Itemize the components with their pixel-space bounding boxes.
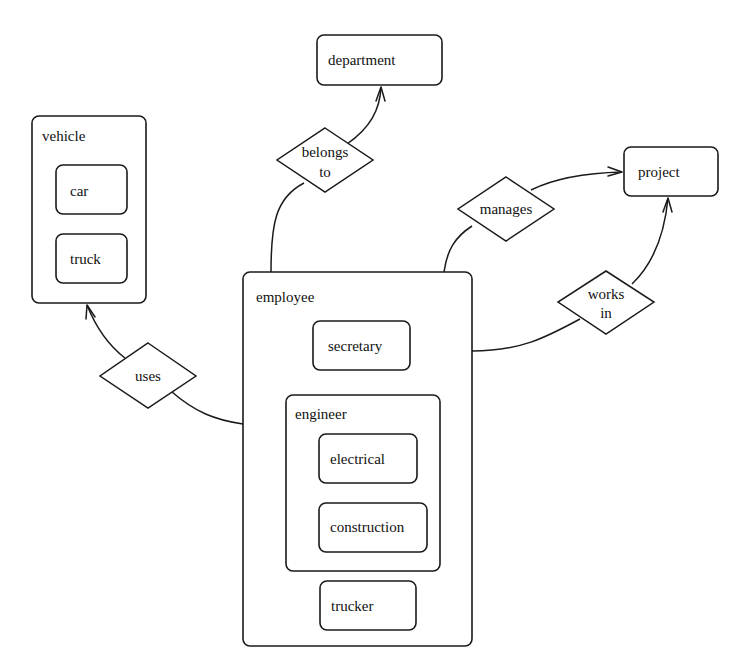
entity-secretary-label: secretary [328, 338, 383, 354]
entity-truck-label: truck [70, 251, 101, 267]
er-diagram: vehicle car truck department project emp… [0, 0, 745, 670]
entity-vehicle-label: vehicle [42, 128, 86, 144]
edge-employee-works-in [472, 319, 580, 351]
relationship-manages-label: manages [480, 201, 533, 217]
relationship-works-in-line1: works [588, 286, 625, 302]
relationship-works-in[interactable]: works in [558, 271, 654, 334]
entity-construction[interactable]: construction [319, 503, 427, 552]
relationship-belongs-to-line2: to [319, 164, 331, 180]
entity-employee-label: employee [256, 289, 315, 305]
entity-department[interactable]: department [317, 35, 442, 85]
entity-project[interactable]: project [624, 147, 718, 196]
edge-employee-uses [172, 392, 243, 424]
relationship-uses[interactable]: uses [100, 343, 196, 408]
entity-electrical[interactable]: electrical [319, 434, 417, 483]
entity-trucker-label: trucker [331, 598, 373, 614]
relationship-uses-label: uses [135, 368, 161, 384]
entity-secretary[interactable]: secretary [313, 321, 410, 370]
entity-project-label: project [638, 164, 680, 180]
entity-electrical-label: electrical [330, 451, 385, 467]
entity-construction-label: construction [330, 519, 405, 535]
entity-car[interactable]: car [56, 165, 127, 214]
edge-manages-project [531, 172, 622, 190]
edge-belongs-to-department [347, 87, 381, 144]
entity-department-label: department [328, 52, 396, 68]
edge-employee-manages [444, 226, 472, 272]
entity-trucker[interactable]: trucker [320, 581, 416, 630]
relationship-belongs-to-line1: belongs [302, 144, 349, 160]
entity-engineer-label: engineer [295, 406, 347, 422]
entity-car-label: car [70, 183, 88, 199]
entity-truck[interactable]: truck [56, 234, 127, 283]
edge-employee-belongs-to [271, 183, 304, 272]
relationship-belongs-to[interactable]: belongs to [277, 128, 373, 192]
relationship-works-in-line2: in [600, 305, 612, 321]
